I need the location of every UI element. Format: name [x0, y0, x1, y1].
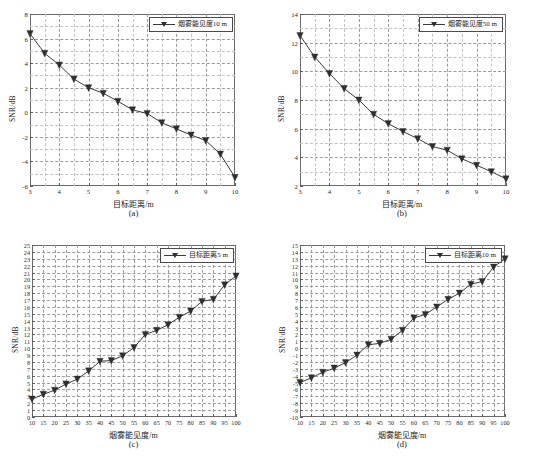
data-marker — [445, 296, 451, 303]
data-marker — [308, 375, 314, 382]
y-tick-label: -3 — [293, 365, 300, 372]
data-marker — [63, 381, 69, 388]
series-line-a — [30, 14, 235, 186]
data-marker — [354, 352, 360, 359]
panel-b: 3456789102468101214烟雾能见度50 m目标距离/mSNR/dB… — [267, 0, 537, 235]
y-tick-label: 16 — [24, 303, 32, 310]
x-tick-label: 90 — [210, 417, 216, 427]
x-tick-label: 70 — [165, 417, 171, 427]
data-marker — [503, 176, 509, 183]
panel-d: 101520253035404550556065707580859095100-… — [267, 235, 537, 472]
y-tick-label: -6 — [22, 183, 30, 190]
x-tick-label: 35 — [86, 417, 92, 427]
data-marker — [415, 136, 421, 143]
x-tick-label: 55 — [399, 417, 405, 427]
data-marker — [199, 298, 205, 305]
y-tick-label: -4 — [22, 158, 30, 165]
legend-label: 烟雾能见度50 m — [448, 20, 497, 29]
x-tick-label: 35 — [354, 417, 360, 427]
y-tick-label: 10 — [24, 345, 32, 352]
panel-caption: (a) — [0, 208, 267, 218]
y-tick-label: 10 — [291, 68, 300, 75]
data-marker — [232, 174, 238, 181]
legend-d: 目标距离10 m — [425, 248, 502, 263]
legend-b: 烟雾能见度50 m — [419, 17, 503, 32]
x-tick-label: 70 — [434, 417, 440, 427]
y-tick-label: -2 — [293, 358, 300, 365]
data-marker — [165, 322, 171, 329]
y-axis-label: SNR/dB — [278, 326, 287, 353]
y-tick-label: -6 — [293, 386, 300, 393]
x-tick-label: 25 — [331, 417, 337, 427]
data-marker — [71, 76, 77, 83]
data-marker — [119, 353, 125, 360]
data-marker — [385, 121, 391, 128]
y-tick-label: 13 — [292, 255, 300, 262]
y-tick-label: 23 — [24, 255, 32, 262]
x-tick-label: 6 — [116, 186, 119, 196]
series-line-b — [300, 14, 506, 186]
data-marker — [85, 368, 91, 375]
y-tick-label: 15 — [292, 242, 300, 249]
y-tick-label: 13 — [24, 324, 32, 331]
x-tick-label: 60 — [411, 417, 417, 427]
x-tick-label: 75 — [445, 417, 451, 427]
x-tick-label: 65 — [422, 417, 428, 427]
legend-marker-icon — [153, 20, 175, 29]
x-tick-label: 30 — [342, 417, 348, 427]
data-marker — [173, 126, 179, 133]
y-tick-label: 19 — [24, 283, 32, 290]
x-tick-label: 30 — [74, 417, 80, 427]
data-marker — [176, 314, 182, 321]
panel-a: 345678910-6-4-202468烟雾能见度10 m目标距离/mSNR/d… — [0, 0, 267, 235]
x-tick-label: 7 — [416, 186, 419, 196]
x-tick-label: 20 — [52, 417, 58, 427]
x-tick-label: 8 — [175, 186, 178, 196]
data-marker — [433, 304, 439, 311]
y-tick-label: 24 — [24, 248, 32, 255]
y-tick-label: -9 — [293, 407, 300, 414]
x-tick-label: 10 — [503, 186, 510, 196]
x-tick-label: 8 — [445, 186, 448, 196]
legend-marker-icon — [423, 20, 445, 29]
plot-area-b: 3456789102468101214烟雾能见度50 m — [300, 14, 506, 186]
y-tickmark — [300, 417, 303, 418]
data-marker — [320, 369, 326, 376]
x-tick-label: 95 — [222, 417, 228, 427]
data-marker — [100, 90, 106, 97]
x-tick-label: 9 — [204, 186, 207, 196]
data-marker — [159, 120, 165, 127]
y-tickmark — [32, 417, 35, 418]
data-marker — [342, 360, 348, 367]
y-axis-label: SNR/dB — [277, 95, 286, 122]
panel-caption: (d) — [267, 439, 537, 449]
y-tick-label: 14 — [24, 317, 32, 324]
x-tick-label: 85 — [199, 417, 205, 427]
x-tick-label: 5 — [357, 186, 360, 196]
plot-area-c: 1015202530354045505560657075808590951000… — [32, 245, 236, 417]
y-tick-label: 12 — [292, 262, 300, 269]
x-tick-label: 6 — [387, 186, 390, 196]
x-tick-label: 40 — [365, 417, 371, 427]
x-tick-label: 15 — [308, 417, 314, 427]
data-marker — [502, 256, 508, 263]
plot-area-a: 345678910-6-4-202468烟雾能见度10 m — [30, 14, 235, 186]
data-marker — [131, 344, 137, 351]
series-line-d — [300, 245, 505, 417]
y-axis-label: SNR/dB — [11, 326, 20, 353]
data-marker — [444, 147, 450, 154]
y-tick-label: 12 — [291, 39, 300, 46]
x-tick-label: 45 — [108, 417, 114, 427]
y-tick-label: 14 — [292, 248, 300, 255]
panel-caption: (c) — [0, 439, 267, 449]
panel-c: 1015202530354045505560657075808590951000… — [0, 235, 267, 472]
y-tickmark — [30, 186, 33, 187]
x-tick-label: 5 — [87, 186, 90, 196]
series-line-c — [32, 245, 236, 417]
x-tick-label: 50 — [388, 417, 394, 427]
y-tick-label: -4 — [293, 372, 300, 379]
y-tick-label: 18 — [24, 290, 32, 297]
x-tick-label: 80 — [456, 417, 462, 427]
data-marker — [488, 169, 494, 176]
x-tick-label: 4 — [58, 186, 61, 196]
